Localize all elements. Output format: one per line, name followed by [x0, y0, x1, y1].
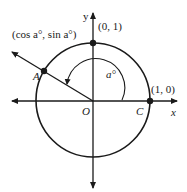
angle-label: a° [106, 68, 117, 80]
point-a-letter: A [32, 70, 40, 82]
point-top [90, 40, 96, 46]
point-c [147, 98, 153, 104]
y-axis-label: y [83, 10, 89, 22]
point-c-label: C [136, 105, 144, 117]
point-a-coords-label: (cos a°, sin a°) [12, 28, 77, 41]
unit-circle-diagram: y x (0, 1) (1, 0) C O A (cos a°, sin a°)… [0, 0, 187, 192]
point-a [41, 68, 47, 74]
point-right-label: (1, 0) [151, 83, 175, 96]
x-axis-label: x [170, 106, 176, 118]
origin-label: O [82, 105, 90, 117]
angle-arc [67, 59, 125, 100]
point-top-label: (0, 1) [98, 20, 122, 33]
